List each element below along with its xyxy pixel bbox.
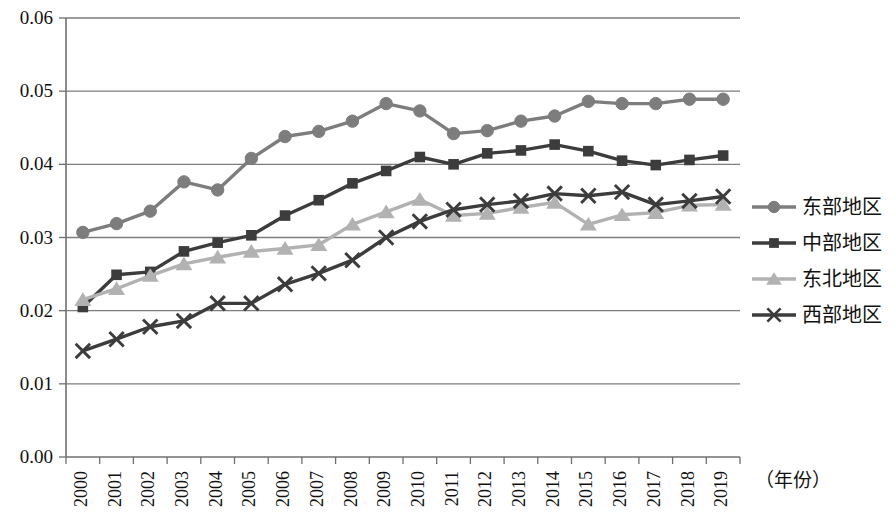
data-point-square [684, 155, 695, 166]
x-axis-tick-label: 2011 [442, 471, 462, 506]
y-axis-tick-label: 0.00 [20, 446, 53, 467]
x-axis-tick-label: 2019 [711, 471, 731, 507]
data-point-triangle [411, 192, 428, 206]
x-axis-tick-label: 2006 [273, 471, 293, 507]
x-axis-tick-label: 2012 [475, 471, 495, 507]
legend-label: 西部地区 [802, 304, 882, 326]
data-point-square [769, 238, 779, 248]
chart-container: 0.000.010.020.030.040.050.06 20002001200… [0, 0, 896, 513]
data-point-circle [380, 97, 392, 109]
x-axis-tick-label: 2014 [543, 471, 563, 507]
data-point-circle [313, 125, 325, 137]
x-axis-tick-label: 2002 [138, 471, 158, 507]
data-point-circle [683, 93, 695, 105]
y-axis-tick-label: 0.04 [20, 153, 54, 174]
data-point-square [313, 195, 324, 206]
x-axis-tick-label: 2001 [105, 471, 125, 507]
data-series-layer [74, 93, 731, 358]
data-point-circle [211, 184, 223, 196]
data-point-square [482, 148, 493, 159]
legend-label: 东部地区 [802, 196, 882, 218]
x-axis-tick-label: 2008 [341, 471, 361, 507]
x-axis-tick-label: 2005 [239, 471, 259, 507]
x-axis-tick-label: 2017 [644, 471, 664, 507]
data-point-circle [245, 152, 257, 164]
data-point-square [448, 159, 459, 170]
legend-label: 中部地区 [802, 232, 882, 254]
legend-item[interactable]: 东北地区 [752, 268, 882, 290]
y-axis-tick-label: 0.03 [20, 227, 53, 248]
data-point-circle [110, 217, 122, 229]
x-axis-tick-label: 2007 [307, 471, 327, 507]
series-x [76, 185, 731, 358]
data-point-circle [144, 205, 156, 217]
data-point-circle [414, 105, 426, 117]
data-point-circle [77, 226, 89, 238]
y-axis-ticks [59, 18, 66, 457]
x-axis-tick-label: 2018 [678, 471, 698, 507]
data-point-square [718, 150, 729, 161]
x-axis-tick-label: 2009 [374, 471, 394, 507]
data-point-circle [515, 115, 527, 127]
legend-item[interactable]: 东部地区 [752, 196, 882, 218]
x-axis-tick-label: 2016 [610, 471, 630, 507]
x-axis-tick-label: 2000 [71, 471, 91, 507]
data-point-circle [447, 127, 459, 139]
legend-label: 东北地区 [802, 268, 882, 290]
series-triangle [74, 192, 731, 306]
legend-item[interactable]: 中部地区 [752, 232, 882, 254]
data-point-square [179, 246, 190, 257]
legend-item[interactable]: 西部地区 [752, 304, 882, 326]
data-point-square [617, 155, 628, 166]
data-point-square [381, 166, 392, 177]
data-point-circle [548, 110, 560, 122]
x-axis-caption: （年份） [755, 470, 831, 491]
data-point-circle [346, 115, 358, 127]
x-axis-labels: 2000200120022003200420052006200720082009… [71, 471, 731, 507]
y-axis-tick-label: 0.01 [20, 373, 53, 394]
series-line [83, 145, 723, 307]
data-point-square [583, 146, 594, 157]
x-axis-tick-label: 2004 [206, 471, 226, 507]
data-point-circle [178, 176, 190, 188]
x-axis-tick-label: 2003 [172, 471, 192, 507]
x-axis-tick-label: 2015 [576, 471, 596, 507]
data-point-circle [717, 93, 729, 105]
y-axis-tick-label: 0.02 [20, 300, 53, 321]
y-axis-labels: 0.000.010.020.030.040.050.06 [20, 7, 54, 467]
data-point-square [280, 210, 291, 221]
y-axis-tick-label: 0.05 [20, 80, 53, 101]
data-point-circle [582, 95, 594, 107]
data-point-square [246, 230, 257, 241]
data-point-square [111, 270, 122, 281]
x-axis-ticks [66, 457, 740, 464]
data-point-circle [279, 130, 291, 142]
series-square [78, 139, 729, 312]
data-point-square [347, 178, 358, 189]
data-point-square [212, 237, 223, 248]
x-axis-tick-label: 2013 [509, 471, 529, 507]
data-point-square [650, 160, 661, 171]
data-point-circle [481, 124, 493, 136]
line-chart: 0.000.010.020.030.040.050.06 20002001200… [0, 0, 896, 513]
data-point-circle [768, 201, 779, 212]
data-point-square [415, 152, 426, 163]
data-point-circle [650, 97, 662, 109]
x-axis-tick-label: 2010 [408, 471, 428, 507]
gridlines [66, 18, 740, 384]
data-point-square [516, 145, 527, 156]
y-axis-tick-label: 0.06 [20, 7, 53, 28]
data-point-circle [616, 97, 628, 109]
chart-legend: 东部地区中部地区东北地区西部地区 [752, 196, 882, 326]
data-point-square [549, 139, 560, 150]
